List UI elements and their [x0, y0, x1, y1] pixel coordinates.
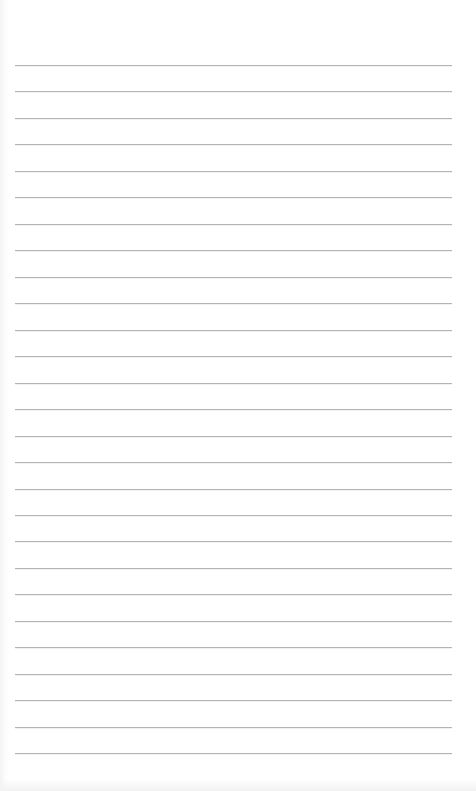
ruled-line: [15, 489, 452, 490]
ruled-line: [15, 224, 452, 225]
ruled-line: [15, 727, 452, 728]
ruled-line: [15, 409, 452, 410]
ruled-line: [15, 621, 452, 622]
ruled-line: [15, 647, 452, 648]
ruled-line: [15, 197, 452, 198]
ruled-line: [15, 65, 452, 66]
ruled-line: [15, 277, 452, 278]
ruled-line: [15, 462, 452, 463]
ruled-line: [15, 91, 452, 92]
ruled-line: [15, 515, 452, 516]
ruled-line: [15, 700, 452, 701]
ruled-line: [15, 250, 452, 251]
ruled-line: [15, 594, 452, 595]
ruled-line: [15, 568, 452, 569]
ruled-line: [15, 356, 452, 357]
ruled-line: [15, 541, 452, 542]
lined-paper-page: [0, 0, 476, 791]
ruled-line: [15, 383, 452, 384]
ruled-line: [15, 436, 452, 437]
ruled-line: [15, 330, 452, 331]
ruled-line: [15, 171, 452, 172]
ruled-line: [15, 674, 452, 675]
ruled-line: [15, 303, 452, 304]
ruled-line: [15, 753, 452, 754]
ruled-line: [15, 118, 452, 119]
ruled-line: [15, 144, 452, 145]
